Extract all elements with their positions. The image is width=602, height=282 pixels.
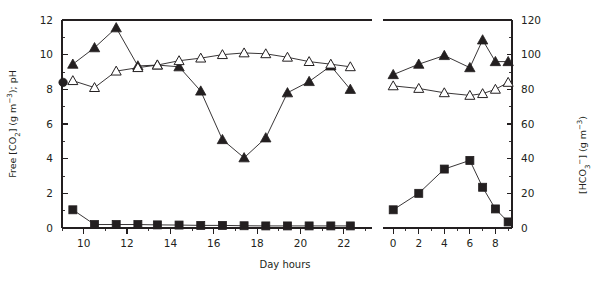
panel-day-panel: 02468101210121416182022	[40, 14, 372, 249]
y-tick-label: 60	[521, 118, 534, 130]
data-point-open-triangle	[68, 76, 78, 85]
y-tick-label: 100	[521, 48, 541, 60]
x-tick-label: 2	[415, 237, 422, 249]
data-point-filled-square	[262, 222, 270, 230]
data-point-filled-square	[346, 222, 354, 230]
y-tick-label: 0	[46, 222, 53, 234]
data-point-filled-square	[240, 222, 248, 230]
data-point-filled-square	[504, 218, 512, 226]
data-point-filled-triangle	[68, 59, 78, 68]
y-tick-label: 6	[46, 118, 53, 130]
data-point-filled-square	[415, 189, 423, 197]
data-point-filled-square	[327, 222, 335, 230]
x-tick-label: 16	[207, 237, 221, 249]
x-tick-label: 14	[164, 237, 178, 249]
series-initial-ph-point	[59, 78, 67, 86]
y-tick-label: 80	[521, 83, 534, 95]
data-point-open-triangle	[478, 89, 488, 98]
data-point-filled-circle	[59, 78, 67, 86]
y-tick-label: 10	[40, 48, 53, 60]
panel-night-panel: 02040608010012002468	[383, 14, 541, 249]
x-tick-label: 20	[294, 237, 307, 249]
chart-canvas: 0246810121012141618202202040608010012002…	[0, 0, 602, 282]
data-point-open-triangle	[388, 81, 398, 90]
data-point-open-triangle	[90, 83, 100, 92]
data-point-filled-triangle	[217, 134, 227, 143]
x-tick-label: 8	[492, 237, 499, 249]
data-point-filled-triangle	[477, 35, 487, 44]
data-point-filled-triangle	[304, 76, 314, 85]
x-tick-label: 18	[250, 237, 263, 249]
data-point-filled-triangle	[490, 56, 500, 65]
data-point-filled-triangle	[439, 50, 449, 59]
y-tick-label: 120	[521, 14, 541, 26]
data-point-filled-square	[479, 183, 487, 191]
x-tick-label: 10	[77, 237, 90, 249]
series-line	[393, 160, 508, 222]
data-point-filled-square	[440, 165, 448, 173]
series-free-co2	[69, 206, 354, 230]
x-tick-label: 4	[441, 237, 448, 249]
data-point-filled-square	[197, 221, 205, 229]
data-point-filled-square	[466, 156, 474, 164]
y-axis-title-left: Free [CO2] (g m−3); pH	[6, 70, 22, 178]
data-point-filled-square	[91, 221, 99, 229]
data-point-filled-square	[69, 206, 77, 214]
data-point-filled-square	[283, 222, 291, 230]
data-point-filled-triangle	[111, 23, 121, 32]
x-tick-label: 6	[467, 237, 474, 249]
y-tick-label: 20	[521, 187, 534, 199]
series-line	[73, 28, 350, 158]
y-tick-label: 2	[46, 187, 53, 199]
y-tick-label: 4	[46, 152, 53, 164]
data-point-filled-square	[491, 205, 499, 213]
data-point-filled-square	[218, 221, 226, 229]
y-axis-title-left-text: Free [CO2] (g m−3); pH	[6, 70, 22, 178]
data-point-filled-square	[153, 221, 161, 229]
x-axis-title: Day hours	[259, 259, 310, 270]
data-point-filled-triangle	[282, 88, 292, 97]
x-tick-label: 22	[337, 237, 350, 249]
data-point-open-triangle	[490, 84, 500, 93]
y-tick-label: 0	[521, 222, 528, 234]
y-tick-label: 40	[521, 152, 534, 164]
figure-container: 0246810121012141618202202040608010012002…	[0, 0, 602, 282]
data-point-filled-square	[175, 221, 183, 229]
data-point-filled-square	[134, 221, 142, 229]
data-point-filled-triangle	[465, 62, 475, 71]
data-point-open-triangle	[239, 48, 249, 57]
data-point-filled-square	[389, 206, 397, 214]
data-point-filled-square	[305, 222, 313, 230]
data-point-filled-triangle	[414, 59, 424, 68]
y-tick-label: 12	[40, 14, 53, 26]
series-line	[393, 40, 508, 75]
x-tick-label: 0	[390, 237, 397, 249]
series-free-co2	[389, 156, 512, 226]
data-point-filled-triangle	[388, 69, 398, 78]
series-ph	[68, 23, 356, 162]
y-axis-title-right: [HCO3−] (g m−3)	[576, 116, 592, 194]
data-point-filled-triangle	[261, 133, 271, 142]
y-axis-title-right-text: [HCO3−] (g m−3)	[576, 116, 592, 194]
data-point-filled-square	[112, 221, 120, 229]
series-ph	[388, 35, 513, 79]
x-tick-label: 12	[120, 237, 133, 249]
y-tick-label: 8	[46, 83, 53, 95]
series-hco3-	[388, 77, 513, 99]
